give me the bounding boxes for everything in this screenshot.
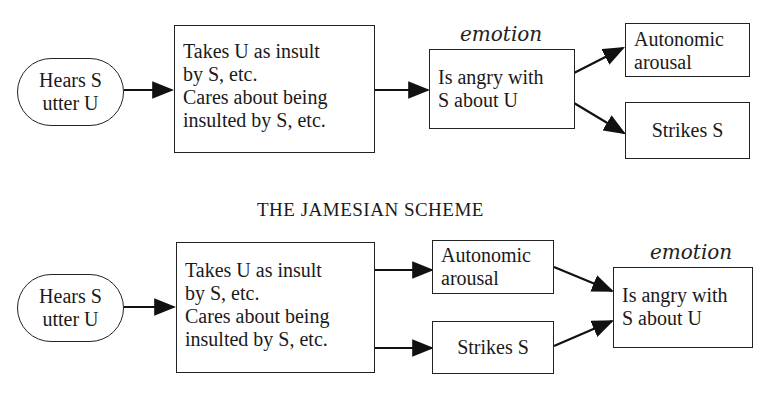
scheme-title: THE JAMESIAN SCHEME (257, 199, 484, 221)
label: Hears S (39, 69, 102, 91)
node-takes-bottom: Takes U as insult by S, etc. Cares about… (176, 242, 375, 373)
label: insulted by S, etc. (183, 109, 366, 132)
node-takes-top: Takes U as insult by S, etc. Cares about… (174, 25, 375, 153)
node-arousal-top: Autonomic arousal (625, 23, 750, 77)
label: S about U (622, 307, 744, 330)
node-strikes-top: Strikes S (625, 102, 750, 159)
node-angry-top: Is angry with S about U (429, 49, 575, 129)
label: S about U (438, 89, 566, 112)
label: insulted by S, etc. (185, 328, 366, 351)
node-hears-bottom: Hears S utter U (17, 274, 124, 342)
label: Cares about being (183, 86, 366, 109)
handwritten-annotation: emotion (460, 22, 542, 46)
label: Is angry with (438, 66, 566, 89)
node-arousal-bottom: Autonomic arousal (432, 240, 554, 294)
label: Autonomic (634, 28, 741, 51)
label: arousal (634, 51, 741, 74)
node-angry-bottom: Is angry with S about U (613, 267, 753, 348)
label: Cares about being (185, 305, 366, 328)
label: Hears S (39, 285, 102, 307)
node-hears-top: Hears S utter U (17, 58, 124, 126)
handwritten-annotation: emotion (650, 240, 732, 264)
label: Strikes S (457, 336, 529, 359)
label: arousal (441, 267, 545, 290)
node-strikes-bottom: Strikes S (432, 321, 554, 374)
label: utter U (42, 92, 98, 114)
label: Takes U as insult (183, 40, 366, 63)
label: Is angry with (622, 284, 744, 307)
label: Strikes S (652, 119, 724, 142)
label: Takes U as insult (185, 259, 366, 282)
label: by S, etc. (185, 282, 366, 305)
label: utter U (42, 308, 98, 330)
label: Autonomic (441, 244, 545, 267)
label: by S, etc. (183, 63, 366, 86)
